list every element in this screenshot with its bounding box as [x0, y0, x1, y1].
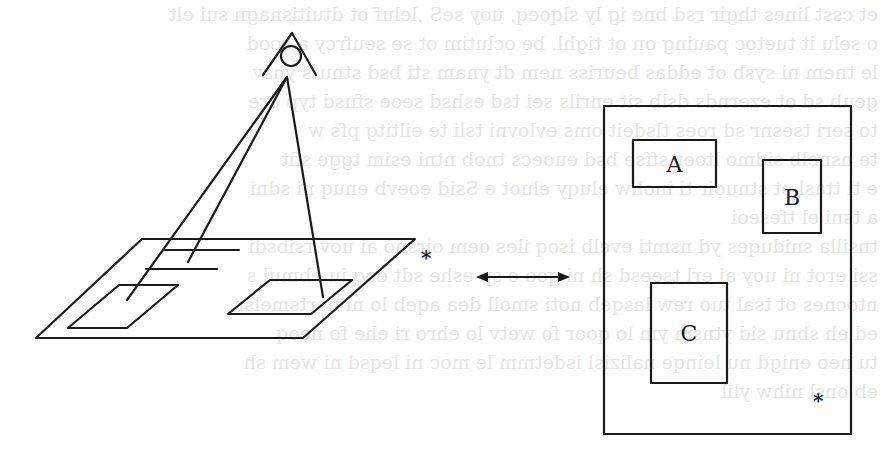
plane-object-right [228, 280, 352, 314]
map-view: A B C * [604, 106, 851, 434]
sight-ray [188, 77, 287, 262]
sight-ray [127, 77, 287, 300]
diagram: * A B C * [0, 0, 884, 459]
perspective-view: * [36, 33, 432, 338]
map-frame [604, 106, 851, 434]
sight-ray [287, 77, 323, 297]
sight-rays [127, 77, 323, 300]
star-marker-right: * [813, 389, 824, 413]
box-c-label: C [681, 321, 698, 346]
double-arrow-icon [476, 272, 570, 282]
box-a-label: A [666, 152, 684, 177]
box-b-label: B [784, 185, 800, 210]
star-marker-left: * [421, 246, 432, 270]
eye-icon [263, 33, 316, 75]
ground-plane [36, 239, 415, 338]
